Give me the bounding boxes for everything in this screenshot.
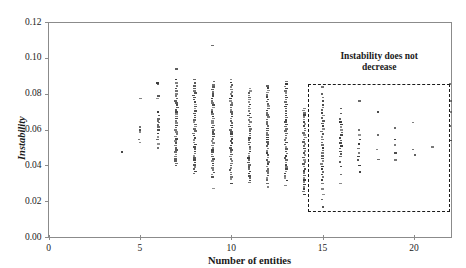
- data-point: [211, 140, 213, 142]
- data-point: [121, 151, 123, 153]
- y-tick-label: 0.08: [8, 88, 42, 98]
- data-point: [248, 108, 251, 110]
- data-point: [249, 135, 251, 137]
- x-axis-spine: [48, 237, 451, 238]
- data-point: [175, 113, 178, 115]
- y-tick-label: 0.00: [8, 232, 42, 242]
- x-tick: [140, 235, 141, 240]
- data-point: [266, 183, 269, 185]
- y-tick: [45, 22, 49, 23]
- x-tick: [231, 235, 232, 240]
- x-tick: [323, 235, 324, 240]
- data-point: [230, 178, 232, 180]
- y-tick-label: 0.02: [8, 196, 42, 206]
- data-point: [156, 139, 159, 141]
- data-point: [285, 108, 287, 110]
- data-point: [285, 135, 287, 137]
- data-point: [175, 90, 178, 92]
- data-point: [193, 135, 195, 137]
- x-tick-label: 10: [218, 243, 244, 253]
- y-tick-label: 0.12: [8, 17, 42, 27]
- data-point: [157, 95, 160, 97]
- x-tick: [49, 235, 50, 240]
- data-point: [230, 167, 232, 169]
- data-point: [194, 82, 196, 84]
- data-point: [157, 143, 160, 145]
- data-point: [303, 194, 306, 196]
- data-point: [303, 188, 305, 190]
- data-point: [157, 129, 160, 131]
- y-tick: [45, 130, 49, 131]
- x-axis-label: Number of entities: [0, 255, 466, 266]
- y-tick: [45, 165, 49, 166]
- x-tick-label: 20: [401, 243, 427, 253]
- data-point: [248, 182, 251, 184]
- data-point: [211, 176, 214, 178]
- x-tick-label: 0: [36, 243, 62, 253]
- data-point: [211, 113, 214, 115]
- data-point: [175, 88, 177, 90]
- data-point: [211, 45, 214, 47]
- data-point: [284, 185, 287, 187]
- data-point: [266, 92, 269, 94]
- data-point: [303, 119, 305, 121]
- data-point: [230, 86, 232, 88]
- data-point: [212, 188, 215, 190]
- data-point: [138, 139, 140, 141]
- instability-scatter-figure: 0.000.020.040.060.080.100.12 05101520 In…: [0, 0, 466, 268]
- data-point: [231, 113, 233, 115]
- data-point: [157, 126, 160, 128]
- data-point: [193, 173, 195, 175]
- data-point: [213, 81, 215, 83]
- data-point: [157, 133, 159, 135]
- data-point: [286, 180, 288, 182]
- plot-top-border: [48, 22, 451, 23]
- x-tick: [414, 235, 415, 240]
- y-tick-label: 0.10: [8, 52, 42, 62]
- data-point: [157, 136, 159, 138]
- data-point: [193, 79, 196, 81]
- data-point: [211, 167, 214, 169]
- data-point: [267, 172, 269, 174]
- data-point: [303, 172, 305, 174]
- data-point: [157, 111, 159, 113]
- data-point: [139, 126, 141, 128]
- data-point: [139, 142, 141, 144]
- y-tick: [45, 94, 49, 95]
- x-tick-label: 5: [127, 243, 153, 253]
- data-point: [175, 165, 177, 167]
- x-tick-label: 15: [310, 243, 336, 253]
- y-tick-label: 0.04: [8, 160, 42, 170]
- data-point: [139, 98, 142, 100]
- data-point: [157, 147, 159, 149]
- data-point: [247, 162, 250, 164]
- y-tick: [45, 201, 49, 202]
- data-point: [176, 85, 178, 87]
- data-point: [193, 85, 196, 87]
- data-point: [157, 83, 159, 85]
- data-point: [175, 82, 178, 84]
- data-point: [156, 98, 159, 100]
- data-point: [175, 79, 177, 81]
- data-point: [266, 119, 268, 121]
- data-point: [230, 140, 232, 142]
- data-point: [266, 145, 268, 147]
- y-tick: [45, 58, 49, 59]
- y-axis-label: Instability: [16, 116, 27, 160]
- plot-right-border: [451, 22, 452, 238]
- data-point: [303, 145, 305, 147]
- data-point: [285, 162, 287, 164]
- data-point: [266, 179, 268, 181]
- data-point: [157, 124, 159, 126]
- data-point: [230, 82, 232, 84]
- data-point: [230, 79, 232, 81]
- data-point: [175, 68, 178, 70]
- data-point: [211, 174, 213, 176]
- data-point: [139, 131, 141, 133]
- data-point: [194, 162, 196, 164]
- data-point: [302, 191, 305, 193]
- data-point: [285, 81, 288, 83]
- data-point: [212, 86, 215, 88]
- data-point: [174, 140, 177, 142]
- data-point: [230, 183, 233, 185]
